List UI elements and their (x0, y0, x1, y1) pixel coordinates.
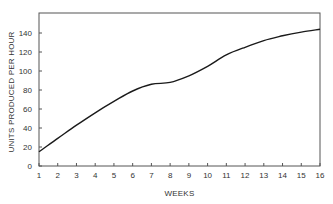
chart: 020406080100120140 123456789101112131415… (0, 0, 333, 204)
x-tick-label: 3 (74, 171, 79, 180)
y-tick-label: 140 (19, 29, 33, 38)
y-axis: 020406080100120140 (19, 29, 42, 171)
y-tick-label: 40 (23, 124, 32, 133)
x-tick-label: 8 (168, 171, 173, 180)
x-tick-label: 15 (297, 171, 306, 180)
x-tick-label: 10 (203, 171, 212, 180)
x-tick-label: 13 (259, 171, 268, 180)
plot-frame (39, 13, 320, 166)
y-tick-label: 20 (23, 143, 32, 152)
data-line (39, 29, 320, 152)
x-tick-label: 9 (187, 171, 192, 180)
x-tick-label: 7 (149, 171, 154, 180)
x-tick-label: 11 (222, 171, 231, 180)
x-tick-label: 1 (37, 171, 42, 180)
y-axis-title: UNITS PRODUCED PER HOUR (7, 31, 16, 152)
x-tick-label: 12 (241, 171, 250, 180)
y-tick-label: 120 (19, 48, 33, 57)
x-tick-label: 16 (316, 171, 325, 180)
x-tick-label: 4 (93, 171, 98, 180)
x-tick-label: 14 (278, 171, 287, 180)
y-tick-label: 100 (19, 67, 33, 76)
x-tick-label: 6 (130, 171, 135, 180)
x-axis-title: WEEKS (165, 189, 195, 198)
y-tick-label: 80 (23, 86, 32, 95)
x-tick-label: 2 (56, 171, 61, 180)
y-tick-label: 0 (28, 162, 33, 171)
y-tick-label: 60 (23, 105, 32, 114)
x-tick-label: 5 (112, 171, 117, 180)
